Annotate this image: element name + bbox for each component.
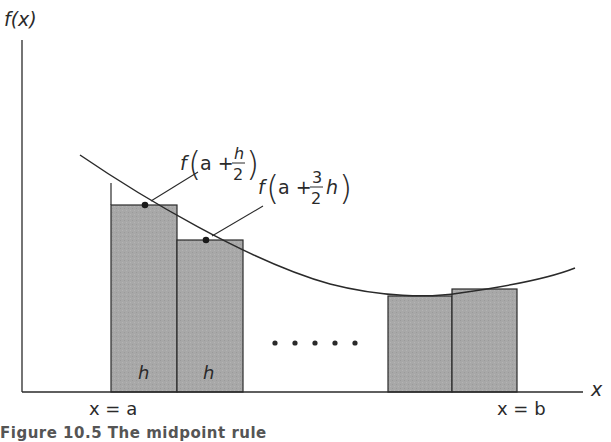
- svg-text:2: 2: [233, 165, 243, 184]
- ellipsis-dots: [272, 340, 357, 345]
- midpoint-dot-2: [203, 237, 210, 244]
- upper-bound-label: x = b: [497, 398, 546, 419]
- midpoint-dot-1: [142, 202, 149, 209]
- svg-text:a +: a +: [200, 152, 234, 174]
- annotation-first-midpoint: f ( a + h 2 ): [180, 144, 259, 184]
- rectangle-n: [452, 289, 517, 392]
- width-label-1: h: [138, 362, 149, 383]
- lower-bound-label: x = a: [89, 398, 137, 419]
- svg-text:3: 3: [312, 168, 322, 187]
- annotation-second-midpoint: f ( a + 3 2 h ): [258, 168, 352, 208]
- figure-caption: Figure 10.5 The midpoint rule: [0, 424, 267, 442]
- y-axis-label-text: f(x): [4, 8, 37, 30]
- x-axis-label: x: [591, 378, 602, 400]
- svg-text:h: h: [234, 144, 244, 163]
- svg-text:2: 2: [311, 189, 321, 208]
- rectangle-n-minus-1: [388, 296, 452, 392]
- svg-text:a +: a +: [278, 176, 312, 198]
- width-label-2: h: [203, 362, 214, 383]
- midpoint-rectangles: [111, 205, 517, 392]
- svg-text:): ): [339, 168, 352, 208]
- svg-text:h: h: [326, 176, 338, 198]
- leader-line-2: [212, 206, 263, 236]
- y-axis-label: f(x): [4, 8, 37, 30]
